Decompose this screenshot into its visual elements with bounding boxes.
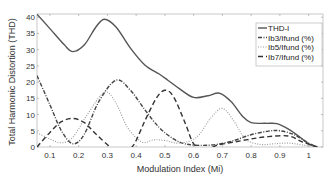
legend-item-label: Ib3/Ifund (%) xyxy=(268,34,314,43)
legend-item-label: Ib5/Ifund (%) xyxy=(268,43,314,52)
y-tick-label: 10 xyxy=(26,111,35,120)
y-tick-label: 5 xyxy=(31,127,36,136)
x-tick-label: 1 xyxy=(306,151,311,160)
x-axis-label: Modulation Index (Mi) xyxy=(137,164,224,174)
x-tick-label: 0.8 xyxy=(246,151,258,160)
x-tick-label: 0.9 xyxy=(274,151,286,160)
legend-item-label: THD-I xyxy=(268,24,289,33)
x-tick-label: 0.1 xyxy=(44,151,56,160)
x-tick-label: 0.6 xyxy=(188,151,200,160)
x-tick-label: 0.5 xyxy=(159,151,171,160)
x-tick-label: 0.2 xyxy=(73,151,85,160)
y-tick-label: 35 xyxy=(26,29,35,38)
y-axis-label: Total Harmonic Distortion (THD) xyxy=(7,18,17,146)
x-tick-label: 0.7 xyxy=(217,151,229,160)
legend: THD-IIb3/Ifund (%)Ib5/Ifund (%)Ib7/Ifund… xyxy=(256,23,322,66)
y-tick-label: 20 xyxy=(26,78,35,87)
y-tick-label: 40 xyxy=(26,13,35,22)
y-tick-label: 15 xyxy=(26,94,35,103)
y-tick-label: 0 xyxy=(31,143,36,152)
x-tick-label: 0.3 xyxy=(102,151,114,160)
x-tick-label: 0.4 xyxy=(131,151,143,160)
thd-chart: 0.10.20.30.40.50.60.70.80.91 05101520253… xyxy=(0,0,334,181)
legend-item-label: Ib7/Ifund (%) xyxy=(268,53,314,62)
y-tick-label: 25 xyxy=(26,62,35,71)
y-tick-label: 30 xyxy=(26,46,35,55)
